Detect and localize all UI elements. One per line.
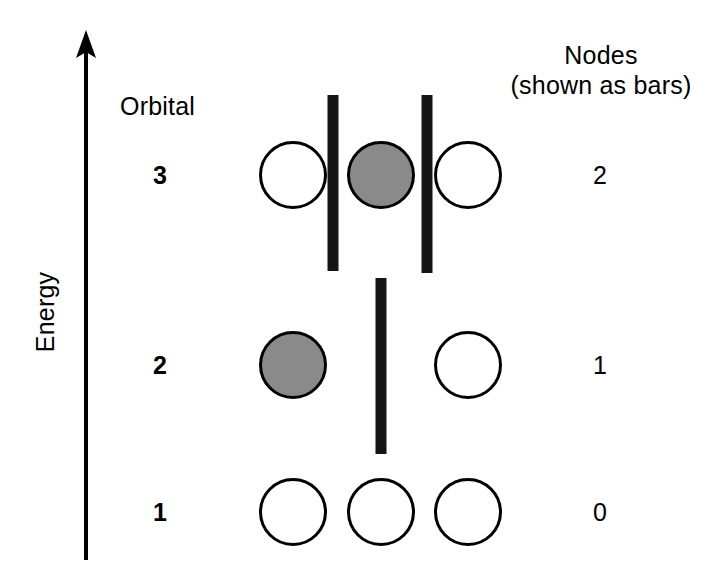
orbital-number-label: 1 bbox=[137, 498, 183, 527]
node-bar bbox=[328, 95, 339, 271]
orbital-lobe-empty bbox=[434, 478, 502, 546]
node-bar bbox=[376, 278, 387, 454]
orbital-lobe-empty bbox=[259, 478, 327, 546]
orbital-lobe-empty bbox=[434, 141, 502, 209]
orbital-number-label: 3 bbox=[137, 161, 183, 190]
node-bar bbox=[422, 95, 433, 273]
orbital-number-label: 2 bbox=[137, 351, 183, 380]
orbital-lobe-shaded bbox=[259, 331, 327, 399]
orbital-energy-diagram: Energy Orbital Nodes (shown as bars) 322… bbox=[0, 0, 722, 588]
node-count-label: 2 bbox=[577, 161, 623, 190]
nodes-header-title: Nodes bbox=[488, 40, 714, 70]
orbital-lobe-shaded bbox=[347, 141, 415, 209]
node-count-label: 0 bbox=[577, 498, 623, 527]
node-count-label: 1 bbox=[577, 351, 623, 380]
nodes-column-header: Nodes (shown as bars) bbox=[488, 40, 714, 100]
nodes-header-subtitle: (shown as bars) bbox=[488, 70, 714, 100]
orbital-column-header: Orbital bbox=[120, 92, 195, 121]
energy-axis-arrowhead bbox=[76, 30, 96, 58]
orbital-lobe-empty bbox=[434, 331, 502, 399]
orbital-lobe-empty bbox=[347, 478, 415, 546]
energy-axis-label: Energy bbox=[0, 275, 125, 349]
orbital-lobe-empty bbox=[259, 141, 327, 209]
